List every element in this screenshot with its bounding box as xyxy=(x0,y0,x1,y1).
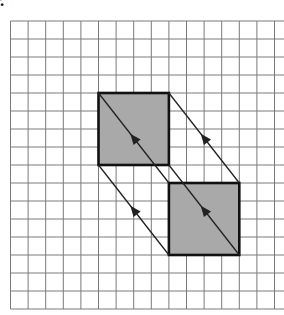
arrowhead-icon xyxy=(130,206,140,217)
original-square xyxy=(99,93,169,165)
translated-square xyxy=(169,183,239,255)
arrowhead-icon xyxy=(201,134,211,145)
translation-diagram xyxy=(0,0,284,315)
